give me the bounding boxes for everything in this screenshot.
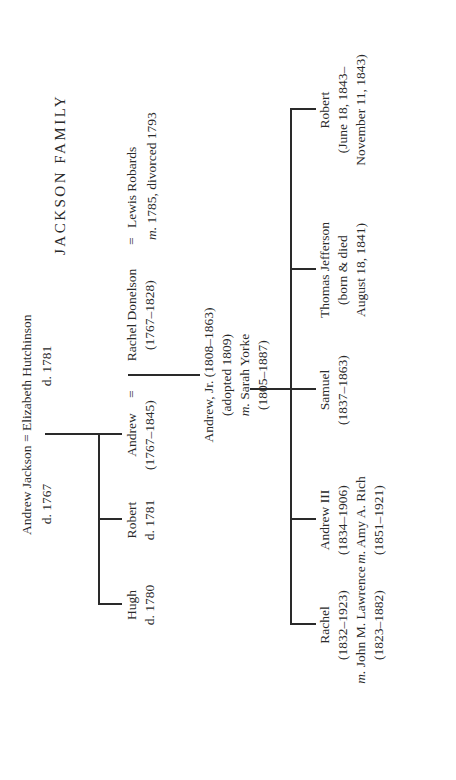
andrew3-drop-line [290,518,316,520]
marriage-prefix: m. [237,403,252,416]
father-dates: d. 1767 [38,484,56,525]
person-dates: (June 18, 1843– [334,54,352,166]
person-samuel: Samuel (1837–1863) [316,355,352,425]
spouse-line: m. Sarah Yorke [236,308,254,443]
prior-marriage-sign: = [123,237,141,245]
spouse-line: m. John M. Lawrence [352,566,370,683]
person-dates: (1834–1906) [334,476,352,563]
father-name: Andrew Jackson [19,445,34,535]
robert2-drop-line [290,108,316,110]
parents-line: Andrew Jackson = Elizabeth Hutchinson [18,314,36,535]
person-dates: (1832–1923) [334,566,352,683]
person-dates: (1837–1863) [334,355,352,425]
spouse-name: Amy A. Rich [353,476,368,548]
family-tree-diagram: JACKSON FAMILY Andrew Jackson = Elizabet… [0,0,456,780]
spouse-line: m. Amy A. Rich [352,476,370,563]
person-andrew: Andrew (1767–1845) [123,400,159,470]
thomas-drop-line [290,268,316,270]
person-dates-cont: August 18, 1841) [352,222,370,318]
samuel-drop-line [290,388,316,390]
person-name: Rachel Donelson [123,269,141,362]
person-dates-cont: November 11, 1843) [352,54,370,166]
marriage-prefix: m. [353,671,368,684]
adopted-son-line [154,374,200,376]
spouse-name: John M. Lawrence [353,566,368,667]
mother-name: Elizabeth Hutchinson [19,314,34,431]
person-name: Andrew III [316,476,334,563]
marriage-prefix: m. [353,551,368,564]
person-dates: d. 1780 [141,585,159,626]
robert-drop-line [98,518,122,520]
person-rachel-donelson: Rachel Donelson (1767–1828) [123,269,159,362]
person-robert-jr: Robert (June 18, 1843– November 11, 1843… [316,54,370,166]
mother-dates: d. 1781 [38,346,56,387]
person-name: Andrew [123,400,141,470]
prior-marriage-note: m. 1785, divorced 1793 [143,112,161,240]
person-name: Samuel [316,355,334,425]
person-dates: d. 1781 [141,500,159,541]
rachel-drop-line [290,623,316,625]
children-descent-line [250,388,290,390]
person-dates: (1767–1845) [141,400,159,470]
person-thomas-jefferson: Thomas Jefferson (born & died August 18,… [316,222,370,318]
generation3-bar [290,109,292,625]
person-name: Thomas Jefferson [316,222,334,318]
marriage-prefix: m. [144,227,159,240]
person-dates: (born & died [334,222,352,318]
person-andrew-jr: Andrew, Jr. (1808–1863) (adopted 1809) m… [200,308,272,443]
adoption-note: (adopted 1809) [218,308,236,443]
spouse-dates: (1851–1921) [370,476,388,563]
person-name: Andrew, Jr. (1808–1863) [200,308,218,443]
person-robert: Robert d. 1781 [123,500,159,541]
person-name: Robert [123,500,141,541]
person-rachel: Rachel (1832–1923) m. John M. Lawrence (… [316,566,388,683]
person-name: Rachel [316,566,334,683]
marriage-sign: = [19,434,34,442]
spouse-dates: (1805–1887) [254,308,272,443]
person-lewis-robards: Lewis Robards [123,147,141,228]
parents-descent-line [45,433,98,435]
hugh-drop-line [98,603,122,605]
andrew-drop-line [98,433,122,435]
person-andrew-iii: Andrew III (1834–1906) m. Amy A. Rich (1… [316,476,388,563]
person-hugh: Hugh d. 1780 [123,585,159,626]
person-name: Hugh [123,585,141,626]
prior-marriage-dates: 1785, divorced 1793 [144,112,159,223]
spouse-dates: (1823–1882) [370,566,388,683]
spouse-marriage-sign: = [123,390,141,398]
person-dates: (1767–1828) [141,269,159,362]
person-name: Robert [316,54,334,166]
diagram-title: JACKSON FAMILY [52,94,69,255]
